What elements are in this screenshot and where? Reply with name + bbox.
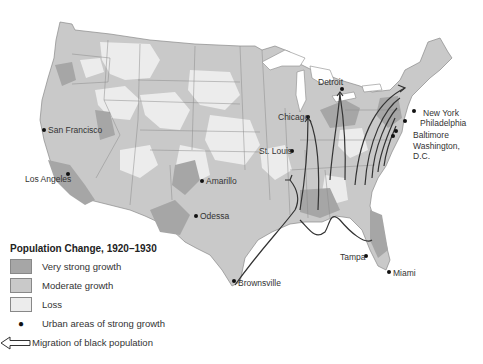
label-baltimore: Baltimore (413, 130, 449, 140)
label-miami: Miami (393, 268, 416, 278)
legend-label: Moderate growth (42, 280, 113, 291)
label-st-louis: St. Louis (259, 146, 292, 156)
city-dot-washington (391, 134, 395, 138)
map-legend: Population Change, 1920–1930 Very strong… (10, 243, 240, 352)
city-dot-philadelphia (403, 119, 407, 123)
dot-icon: ● (10, 318, 32, 329)
label-los-angeles: Los Angeles (25, 174, 71, 184)
label-amarillo: Amarillo (206, 176, 237, 186)
city-dot-miami (387, 270, 391, 274)
legend-item-very-strong: Very strong growth (10, 257, 240, 276)
label-chicago: Chicago (278, 112, 309, 122)
city-dot-amarillo (200, 179, 204, 183)
city-dot-detroit (340, 87, 344, 91)
legend-item-urban: ● Urban areas of strong growth (10, 314, 240, 333)
label-tampa: Tampa (340, 252, 366, 262)
city-dot-new-york (412, 109, 416, 113)
city-dot-baltimore (394, 129, 398, 133)
legend-title: Population Change, 1920–1930 (10, 243, 240, 254)
legend-label: Very strong growth (42, 261, 121, 272)
city-dot-san-francisco (42, 128, 46, 132)
city-dot-odessa (194, 214, 198, 218)
label-san-francisco: San Francisco (48, 125, 103, 135)
label-brownsville: Brownsville (238, 278, 281, 288)
label-odessa: Odessa (200, 211, 230, 221)
legend-item-loss: Loss (10, 295, 240, 314)
label-detroit: Detroit (318, 77, 344, 87)
legend-item-migration: Migration of black population (0, 333, 240, 352)
label-washington: Washington, (413, 141, 460, 151)
legend-label: Urban areas of strong growth (42, 318, 165, 329)
label-philadelphia: Philadelphia (420, 118, 467, 128)
label-new-york: New York (423, 108, 460, 118)
arrow-left-icon (0, 336, 32, 350)
legend-label: Loss (42, 299, 62, 310)
swatch-moderate (10, 278, 32, 293)
swatch-loss (10, 297, 32, 312)
label-dc: D.C. (413, 151, 430, 161)
legend-label: Migration of black population (32, 337, 153, 348)
legend-item-moderate: Moderate growth (10, 276, 240, 295)
swatch-very-strong (10, 259, 32, 274)
